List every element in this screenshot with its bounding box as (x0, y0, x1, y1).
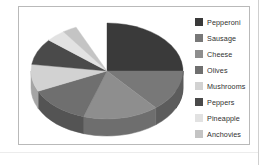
legend-swatch-icon (195, 18, 203, 26)
legend-item-label: Pepperoni (207, 18, 241, 27)
pie-chart-svg[interactable] (21, 9, 189, 142)
legend-item-pineapple[interactable]: Pineapple (195, 110, 249, 126)
legend-item-label: Pineapple (207, 114, 240, 123)
legend-swatch-icon (195, 50, 203, 58)
pie-3d-group (31, 23, 183, 136)
legend-item-label: Olives (207, 66, 228, 75)
legend-item-sausage[interactable]: Sausage (195, 30, 249, 46)
legend-item-label: Sausage (207, 34, 236, 43)
legend-swatch-icon (195, 130, 203, 138)
legend-item-label: Peppers (207, 98, 234, 107)
pie-plot-area[interactable] (21, 9, 189, 142)
legend-item-olives[interactable]: Olives (195, 62, 249, 78)
chart-legend[interactable]: Pepperoni Sausage Cheese Olives Mushroom (195, 11, 249, 142)
legend-item-anchovies[interactable]: Anchovies (195, 126, 249, 142)
legend-item-label: Anchovies (207, 130, 241, 139)
legend-item-mushrooms[interactable]: Mushrooms (195, 78, 249, 94)
legend-swatch-icon (195, 66, 203, 74)
legend-item-label: Mushrooms (207, 82, 245, 91)
legend-swatch-icon (195, 34, 203, 42)
legend-swatch-icon (195, 82, 203, 90)
legend-item-cheese[interactable]: Cheese (195, 46, 249, 62)
legend-swatch-icon (195, 98, 203, 106)
screenshot-root: Pepperoni Sausage Cheese Olives Mushroom (0, 0, 269, 165)
right-panel-edge (258, 0, 269, 165)
legend-item-peppers[interactable]: Peppers (195, 94, 249, 110)
document-page: Pepperoni Sausage Cheese Olives Mushroom (0, 0, 269, 165)
chart-object-frame[interactable]: Pepperoni Sausage Cheese Olives Mushroom (18, 6, 250, 145)
legend-item-label: Cheese (207, 50, 232, 59)
legend-item-pepperoni[interactable]: Pepperoni (195, 14, 249, 30)
legend-swatch-icon (195, 114, 203, 122)
page-bottom-divider (0, 152, 258, 153)
pie-top-faces (31, 23, 183, 119)
